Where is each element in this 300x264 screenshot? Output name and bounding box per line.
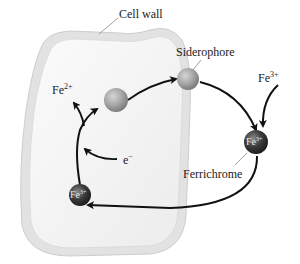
siderophore-sphere bbox=[177, 68, 199, 90]
ferrichrome-ion-base: Fe bbox=[246, 136, 256, 147]
fe3-base: Fe bbox=[258, 71, 270, 85]
inside-ion-charge: 3+ bbox=[80, 189, 86, 195]
ion-inside: Fe3+ bbox=[70, 190, 86, 200]
ferrichrome-ion-charge: 3+ bbox=[256, 136, 262, 142]
fe2-base: Fe bbox=[52, 83, 64, 97]
cell-interior bbox=[30, 37, 183, 248]
label-electron: e− bbox=[123, 154, 133, 166]
label-fe3-outside: Fe3+ bbox=[258, 72, 279, 84]
siderophore-leader bbox=[193, 60, 201, 70]
iron-uptake-diagram bbox=[0, 0, 300, 264]
label-fe2: Fe2+ bbox=[52, 84, 73, 96]
fe2-charge: 2+ bbox=[64, 82, 73, 91]
cell-wall-leader bbox=[99, 18, 118, 34]
ion-ferrichrome: Fe3+ bbox=[246, 137, 262, 147]
inside-ion-base: Fe bbox=[70, 189, 80, 200]
label-cell-wall: Cell wall bbox=[119, 8, 163, 20]
arrow-bind bbox=[200, 82, 256, 130]
label-siderophore: Siderophore bbox=[176, 46, 235, 58]
arrow-fe3-entry bbox=[263, 85, 278, 126]
label-ferrichrome: Ferrichrome bbox=[183, 168, 242, 180]
fe3-charge: 3+ bbox=[270, 70, 279, 79]
ferrichrome-leader bbox=[235, 153, 247, 165]
inner-siderophore-sphere bbox=[104, 88, 128, 112]
electron-charge: − bbox=[128, 152, 133, 161]
